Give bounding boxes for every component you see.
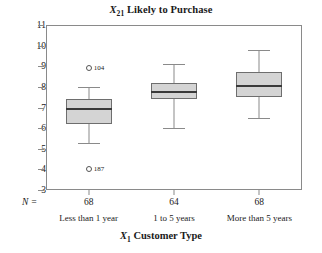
y-tick-mark: [38, 108, 44, 109]
x-category-label: Less than 1 year: [59, 213, 118, 223]
n-value: 68: [84, 197, 94, 207]
y-axis: 34567891011: [0, 0, 46, 253]
outlier-point: [86, 166, 92, 172]
box-plot-3: [217, 25, 302, 190]
y-tick-mark: [38, 87, 44, 88]
y-tick-mark: [38, 46, 44, 47]
x-category-label: More than 5 years: [227, 213, 292, 223]
n-value: 64: [169, 197, 179, 207]
whisker-upper: [173, 64, 174, 83]
chart-title-variable: X: [109, 4, 116, 15]
whisker-lower: [88, 124, 89, 143]
x-axis-title-variable: X: [120, 230, 127, 241]
x-category-label: 1 to 5 years: [153, 213, 195, 223]
x-tick-mark: [259, 190, 260, 195]
box-iqr: [66, 99, 112, 124]
x-tick-mark: [174, 190, 175, 195]
outlier-label: 187: [94, 165, 105, 173]
median-line: [66, 108, 112, 110]
outlier-point: [86, 65, 92, 71]
y-tick-mark: [38, 149, 44, 150]
whisker-upper: [88, 87, 89, 99]
box-plot-2: [131, 25, 216, 190]
whisker-lower: [173, 99, 174, 128]
y-tick-mark: [38, 66, 44, 67]
x-axis-title-text: Customer Type: [131, 230, 202, 241]
x-tick-mark: [88, 190, 89, 195]
whisker-cap-lower: [78, 143, 100, 144]
whisker-cap-lower: [163, 128, 185, 129]
y-tick-mark: [38, 25, 44, 26]
y-tick-mark: [38, 169, 44, 170]
whisker-lower: [259, 97, 260, 118]
chart-title: X21 Likely to Purchase: [0, 4, 322, 18]
outlier-label: 104: [94, 64, 105, 72]
whisker-cap-upper: [78, 87, 100, 88]
whisker-cap-upper: [163, 64, 185, 65]
n-value: 68: [255, 197, 265, 207]
median-line: [151, 91, 197, 93]
box-plot-1: 104187: [46, 25, 131, 190]
boxplot-figure: X21 Likely to Purchase 34567891011 X1 Cu…: [0, 0, 322, 253]
median-line: [236, 85, 282, 87]
y-tick-mark: [38, 128, 44, 129]
n-equals-text: N =: [22, 197, 37, 207]
chart-title-text: Likely to Purchase: [124, 4, 212, 15]
x-axis-title: X1 Customer Type: [0, 230, 322, 244]
whisker-upper: [259, 50, 260, 73]
n-equals-label: N =: [22, 197, 37, 207]
whisker-cap-lower: [248, 118, 270, 119]
y-tick-mark: [38, 190, 44, 191]
whisker-cap-upper: [248, 50, 270, 51]
